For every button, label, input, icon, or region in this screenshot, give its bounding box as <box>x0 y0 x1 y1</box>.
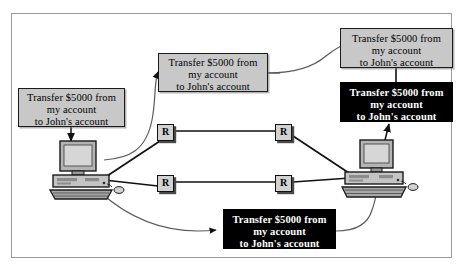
computer-right-graphic <box>342 140 418 197</box>
message-line-3: to John's account <box>19 116 124 128</box>
message-line-1: Transfer $5000 from <box>19 92 124 104</box>
message-line-2: my account <box>341 99 452 111</box>
message-line-1: Transfer $5000 from <box>341 87 452 99</box>
router-node-bottom-left[interactable]: R <box>157 175 174 192</box>
message-line-2: my account <box>224 226 335 238</box>
message-line-1: Transfer $5000 from <box>224 214 335 226</box>
message-line-3: to John's account <box>224 238 335 250</box>
router-node-top-right[interactable]: R <box>275 124 292 141</box>
message-line-2: my account <box>341 45 452 57</box>
message-box-in-transit: Transfer $5000 from my account to John's… <box>158 53 268 92</box>
message-line-2: my account <box>19 104 124 116</box>
message-box-intercepted-bottom: Transfer $5000 from my account to John's… <box>223 209 336 249</box>
message-line-1: Transfer $5000 from <box>341 33 452 45</box>
network-security-figure: R R R R Transfer $5000 from my account t… <box>0 0 464 272</box>
router-node-bottom-right[interactable]: R <box>275 175 292 192</box>
message-line-3: to John's account <box>159 81 267 93</box>
link-sender-router-bl <box>104 180 158 186</box>
message-line-3: to John's account <box>341 57 452 69</box>
router-node-top-left[interactable]: R <box>157 124 174 141</box>
arrow-receiver-to-intercept-top <box>385 124 389 140</box>
link-router-br-receiver <box>293 178 350 182</box>
message-box-intercepted-top: Transfer $5000 from my account to John's… <box>340 82 453 122</box>
message-line-2: my account <box>159 69 267 81</box>
computer-left-graphic <box>50 141 124 199</box>
link-router-tr-receiver <box>293 136 352 175</box>
message-line-3: to John's account <box>341 111 452 123</box>
arrow-sender-to-intercept-bottom <box>100 192 216 231</box>
message-box-sender: Transfer $5000 from my account to John's… <box>18 88 125 127</box>
message-box-receiver: Transfer $5000 from my account to John's… <box>340 28 453 68</box>
message-line-1: Transfer $5000 from <box>159 57 267 69</box>
